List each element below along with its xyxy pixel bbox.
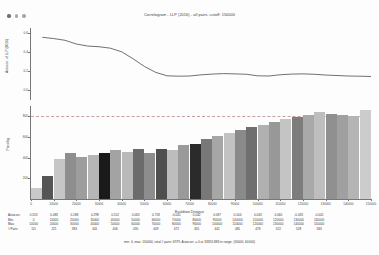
x-tick-label: 30000 (95, 202, 104, 206)
acf-line-series (31, 28, 371, 100)
bar-item[interactable] (258, 125, 269, 199)
bar-item[interactable] (88, 155, 99, 199)
bars-y-tick-mark (28, 178, 30, 179)
x-tick-label: 40000 (117, 202, 126, 206)
table-cell: 481 (227, 227, 247, 232)
x-tick-label: 60000 (163, 202, 172, 206)
correlogram-window: Correlogram - LLP (2016) - all pairs, cu… (0, 0, 379, 255)
x-tick-label: 130000 (320, 202, 330, 206)
bar-item[interactable] (280, 119, 291, 199)
acf-y-tick-mark (28, 90, 30, 91)
bar-item[interactable] (99, 153, 110, 199)
x-tick-label: 90000 (231, 202, 240, 206)
bars-y-tick-mark (28, 137, 30, 138)
x-tick-label: 100000 (252, 202, 262, 206)
bar-item[interactable] (76, 157, 87, 199)
pairs-bar-chart: Pairs/lag 800600400200 01000020000300004… (0, 106, 379, 202)
bar-item[interactable] (42, 176, 53, 199)
table-cell: 455 (187, 227, 207, 232)
table-cell: 522 (268, 227, 288, 232)
bar-item[interactable] (348, 116, 359, 199)
table-row-header: # Pairs (8, 227, 23, 232)
bar-item[interactable] (235, 130, 246, 199)
acf-y-tick-mark (28, 52, 30, 53)
bar-item[interactable] (178, 145, 189, 199)
table-cell: 406 (105, 227, 125, 232)
x-tick-label: 80000 (208, 202, 217, 206)
bar-item[interactable] (122, 152, 133, 199)
bar-item[interactable] (292, 117, 303, 199)
table-cell: 472 (166, 227, 186, 232)
x-tick-label: 120000 (298, 202, 308, 206)
table-cell: 528 (288, 227, 308, 232)
table-cell: 441 (85, 227, 105, 232)
bar-item[interactable] (224, 133, 235, 199)
bar-item[interactable] (110, 150, 121, 199)
bar-item[interactable] (167, 150, 178, 199)
bar-item[interactable] (133, 149, 144, 199)
bars-y-tick-mark (28, 158, 30, 159)
bar-item[interactable] (65, 153, 76, 199)
table-row: # Pairs111221383441406430449472455441481… (8, 227, 329, 232)
table-cell: 430 (125, 227, 145, 232)
bars-plot-area (31, 106, 371, 199)
bar-item[interactable] (337, 115, 348, 199)
bar-item[interactable] (246, 127, 257, 199)
bar-item[interactable] (201, 139, 212, 199)
bar-item[interactable] (212, 136, 223, 199)
x-tick-label: 50000 (140, 202, 149, 206)
bar-item[interactable] (190, 144, 201, 199)
x-tick-label: 110000 (275, 202, 285, 206)
title-bar: Correlogram - LLP (2016) - all pairs, cu… (0, 11, 379, 25)
table-cell: 111 (23, 227, 43, 232)
statistics-table: Autocorr.0.5530.4830.1880.2980.1520.0630… (0, 213, 379, 239)
bars-y-axis-ticks: 800600400200 (0, 106, 30, 199)
x-tick-label: 0 (30, 202, 32, 206)
table-cell: 583 (309, 227, 329, 232)
bar-item[interactable] (269, 122, 280, 199)
bar-item[interactable] (360, 110, 371, 199)
bar-item[interactable] (54, 159, 65, 199)
footer-summary: min: 0, max: 150000, total # pairs: 6979… (0, 240, 379, 244)
x-tick-label: 140000 (343, 202, 353, 206)
bar-item[interactable] (156, 149, 167, 199)
bar-item[interactable] (303, 115, 314, 199)
table-cell: 221 (44, 227, 64, 232)
table-cell: 478 (248, 227, 268, 232)
bar-item[interactable] (31, 188, 42, 199)
autocorrelation-plot: Autocorr. of LLP (2016) 0.60.40.20.0 (0, 26, 379, 104)
bars-x-axis-ticks: 0100002000030000400005000060000700008000… (31, 199, 371, 209)
page-title: Correlogram - LLP (2016) - all pairs, cu… (0, 13, 379, 17)
x-tick-label: 70000 (185, 202, 194, 206)
bar-item[interactable] (314, 112, 325, 199)
table-cell: 383 (64, 227, 84, 232)
x-tick-label: 150000 (366, 202, 376, 206)
bar-item[interactable] (144, 153, 155, 199)
acf-y-tick-mark (28, 33, 30, 34)
acf-y-tick-mark (28, 71, 30, 72)
x-tick-label: 10000 (49, 202, 58, 206)
table-cell: 449 (146, 227, 166, 232)
bar-item[interactable] (326, 114, 337, 199)
bars-y-tick-mark (28, 116, 30, 117)
acf-y-axis-ticks: 0.60.40.20.0 (0, 26, 30, 100)
x-tick-label: 20000 (72, 202, 81, 206)
table-cell: 441 (207, 227, 227, 232)
